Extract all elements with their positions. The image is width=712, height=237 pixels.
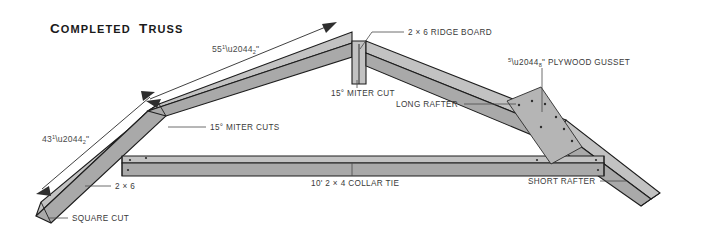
nail-dot (540, 126, 542, 128)
diagram-background (0, 0, 712, 237)
ridge-board (352, 41, 366, 84)
nail-dot (571, 140, 573, 142)
nail-dot (531, 100, 533, 102)
callout-short-rafter-label: SHORT RAFTER (528, 177, 596, 186)
nail-dot (129, 159, 131, 161)
nail-dot (563, 128, 565, 130)
nail-dot (127, 169, 129, 171)
callout-plywood-gusset-label: 5\u20448" PLYWOOD GUSSET (508, 57, 630, 68)
collar-tie-front-face (122, 163, 604, 176)
dimension-short-rafter-label: 431\u20442" (42, 134, 89, 145)
nail-dot (145, 157, 147, 159)
page-title: COMPLETED TRUSS (50, 21, 183, 36)
callout-collar-tie-label: 10' 2 × 4 COLLAR TIE (311, 179, 399, 188)
callout-miter-cut-ridge-label: 15° MITER CUT (331, 89, 395, 98)
callout-ridge-board-label: 2 × 6 RIDGE BOARD (408, 28, 492, 37)
nail-dot (555, 116, 557, 118)
nail-dot (536, 159, 538, 161)
completed-truss-diagram: 551\u20442" 431\u20442" 2 × 6 RIDGE BOAR… (0, 0, 712, 237)
callout-long-rafter-label: LONG RAFTER (396, 100, 458, 109)
dimension-long-rafter-label: 551\u20442" (212, 44, 259, 55)
nail-dot (595, 159, 597, 161)
nail-dot (597, 169, 599, 171)
collar-tie (122, 156, 604, 176)
callout-miter-cuts-left-label: 15° MITER CUTS (210, 123, 280, 132)
nail-dot (544, 103, 546, 105)
collar-tie-top-face (122, 156, 604, 163)
nail-dot (518, 104, 520, 106)
callout-lumber-2x6-label: 2 × 6 (115, 182, 135, 191)
figure-title: COMPLETED TRUSS (50, 21, 183, 36)
callout-square-cut-label: SQUARE CUT (72, 214, 129, 223)
